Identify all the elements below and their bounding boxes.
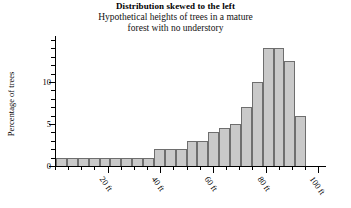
histogram-bar bbox=[252, 82, 263, 166]
x-axis-major-tick bbox=[160, 166, 161, 173]
x-axis-minor-tick bbox=[68, 166, 69, 170]
x-axis-minor-tick bbox=[121, 166, 122, 170]
x-axis-minor-tick bbox=[226, 166, 227, 170]
histogram-bar bbox=[176, 149, 187, 166]
x-axis-minor-tick bbox=[187, 166, 188, 170]
histogram-bar bbox=[67, 158, 78, 166]
y-axis-minor-tick bbox=[51, 74, 56, 75]
y-axis-minor-tick bbox=[51, 48, 56, 49]
histogram-bar bbox=[274, 48, 285, 166]
x-axis-minor-tick bbox=[279, 166, 280, 170]
y-axis-minor-tick bbox=[51, 90, 56, 91]
x-axis-major-tick bbox=[108, 166, 109, 173]
y-axis-minor-tick bbox=[51, 107, 56, 108]
title-block: Distribution skewed to the left Hypothet… bbox=[0, 1, 351, 34]
y-axis-minor-tick bbox=[51, 141, 56, 142]
y-axis: 0510 bbox=[55, 36, 56, 166]
histogram-figure: Distribution skewed to the left Hypothet… bbox=[0, 0, 351, 208]
x-axis-minor-tick bbox=[173, 166, 174, 170]
bars-container bbox=[56, 40, 306, 166]
histogram-bar bbox=[56, 158, 67, 166]
y-axis-minor-tick bbox=[51, 149, 56, 150]
y-axis-tick-label: 10 bbox=[43, 78, 52, 87]
histogram-bar bbox=[219, 128, 230, 166]
x-axis-minor-tick bbox=[305, 166, 306, 170]
y-axis-tick-label: 5 bbox=[47, 120, 51, 129]
x-axis-minor-tick bbox=[200, 166, 201, 170]
y-axis-minor-tick bbox=[51, 65, 56, 66]
histogram-bar bbox=[187, 141, 198, 166]
histogram-bar bbox=[110, 158, 121, 166]
x-axis-tick-label: 100 ft bbox=[308, 175, 326, 196]
x-axis-tick-label: 80 ft bbox=[256, 175, 272, 193]
y-axis-title: Percentage of trees bbox=[4, 48, 18, 160]
histogram-bar bbox=[295, 116, 306, 166]
histogram-bar bbox=[78, 158, 89, 166]
y-axis-minor-tick bbox=[51, 116, 56, 117]
chart-subtitle: Hypothetical heights of trees in a matur… bbox=[0, 12, 351, 34]
histogram-bar bbox=[154, 149, 165, 166]
x-axis: 20 ft40 ft60 ft80 ft100 ft bbox=[55, 166, 326, 167]
histogram-bar bbox=[89, 158, 100, 166]
chart-subtitle-line-2: forest with no understory bbox=[0, 23, 351, 34]
y-axis-minor-tick bbox=[51, 99, 56, 100]
x-axis-major-tick bbox=[318, 166, 319, 173]
chart-subtitle-line-1: Hypothetical heights of trees in a matur… bbox=[0, 12, 351, 23]
histogram-bar bbox=[197, 141, 208, 166]
plot-area bbox=[56, 40, 306, 166]
y-axis-minor-tick bbox=[51, 132, 56, 133]
y-axis-title-label: Percentage of trees bbox=[6, 72, 16, 137]
histogram-bar bbox=[100, 158, 111, 166]
x-axis-major-tick bbox=[213, 166, 214, 173]
histogram-bar bbox=[143, 158, 154, 166]
x-axis-minor-tick bbox=[94, 166, 95, 170]
y-axis-minor-tick bbox=[51, 57, 56, 58]
x-axis-major-tick bbox=[266, 166, 267, 173]
x-axis-minor-tick bbox=[134, 166, 135, 170]
y-axis-minor-tick bbox=[51, 40, 56, 41]
x-axis-minor-tick bbox=[147, 166, 148, 170]
x-axis-minor-tick bbox=[252, 166, 253, 170]
histogram-bar bbox=[241, 107, 252, 166]
x-axis-tick-label: 20 ft bbox=[98, 175, 114, 193]
histogram-bar bbox=[230, 124, 241, 166]
x-axis-minor-tick bbox=[239, 166, 240, 170]
x-axis-minor-tick bbox=[292, 166, 293, 170]
chart-title: Distribution skewed to the left bbox=[0, 1, 351, 12]
histogram-bar bbox=[284, 61, 295, 166]
x-axis-minor-tick bbox=[81, 166, 82, 170]
y-axis-minor-tick bbox=[51, 158, 56, 159]
x-axis-tick-label: 60 ft bbox=[203, 175, 219, 193]
histogram-bar bbox=[121, 158, 132, 166]
histogram-bar bbox=[208, 132, 219, 166]
y-axis-tick-label: 0 bbox=[47, 162, 51, 171]
histogram-bar bbox=[165, 149, 176, 166]
histogram-bar bbox=[132, 158, 143, 166]
x-axis-tick-label: 40 ft bbox=[150, 175, 166, 193]
histogram-bar bbox=[263, 48, 274, 166]
x-axis-minor-tick bbox=[55, 166, 56, 170]
